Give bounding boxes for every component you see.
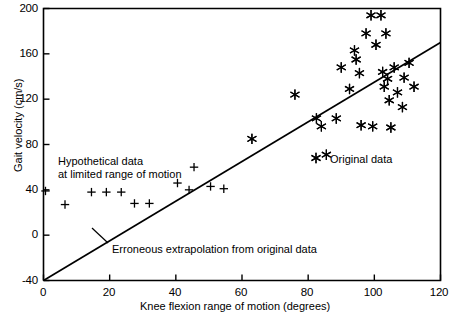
x-tick-label-0: 0: [23, 286, 63, 298]
annotation-hypothetical-line2: at limited range of motion: [58, 168, 182, 181]
data-point-plus: [87, 188, 95, 196]
x-tick-label-20: 20: [89, 286, 129, 298]
data-point-asterisk: [381, 28, 390, 38]
data-point-asterisk: [386, 122, 395, 132]
x-axis-title: Knee flexion range of motion (degrees): [140, 300, 330, 312]
annotation-leader-line: [92, 228, 108, 243]
annotation-extrapolation: Erroneous extrapolation from original da…: [112, 243, 317, 256]
data-point-asterisk: [368, 121, 377, 131]
x-tick-label-120: 120: [419, 286, 459, 298]
data-point-plus: [145, 199, 153, 207]
data-point-asterisk: [357, 120, 366, 130]
y-tick-label-neg40: -40: [0, 274, 38, 286]
data-point-plus: [102, 188, 110, 196]
y-tick-label-200: 200: [0, 2, 38, 14]
data-point-plus: [190, 163, 198, 171]
x-tick-label-40: 40: [155, 286, 195, 298]
data-point-plus: [206, 182, 214, 190]
data-point-asterisk: [345, 84, 354, 94]
y-tick-label-40: 40: [0, 183, 38, 195]
annotation-original-data: Original data: [330, 153, 392, 166]
plot-frame: [44, 9, 441, 281]
data-point-asterisk: [311, 153, 320, 163]
data-point-asterisk: [247, 134, 256, 144]
data-point-plus: [117, 188, 125, 196]
x-tick-label-80: 80: [287, 286, 327, 298]
data-point-asterisk: [376, 10, 385, 20]
x-tick-label-60: 60: [221, 286, 261, 298]
y-tick-label-0: 0: [0, 228, 38, 240]
data-point-asterisk: [350, 45, 359, 55]
data-point-asterisk: [385, 95, 394, 105]
data-point-asterisk: [317, 121, 326, 131]
annotation-hypothetical-line1: Hypothetical data: [58, 155, 143, 168]
data-point-asterisk: [337, 62, 346, 72]
y-tick-label-80: 80: [0, 138, 38, 150]
data-point-plus: [130, 199, 138, 207]
data-point-asterisk: [367, 10, 376, 20]
data-point-asterisk: [352, 54, 361, 64]
data-point-asterisk: [362, 28, 371, 38]
data-point-plus: [185, 186, 193, 194]
data-point-asterisk: [332, 113, 341, 123]
x-tick-label-100: 100: [353, 286, 393, 298]
figure-container: Gait velocity (cm/s) 200 160 120 80 40 0…: [0, 0, 460, 321]
data-point-plus: [220, 185, 228, 193]
data-point-asterisk: [393, 87, 402, 97]
data-point-asterisk: [398, 102, 407, 112]
data-point-plus: [41, 187, 49, 195]
y-tick-label-120: 120: [0, 92, 38, 104]
y-tick-label-160: 160: [0, 47, 38, 59]
data-point-asterisk: [290, 89, 299, 99]
data-point-asterisk: [355, 68, 364, 78]
data-point-plus: [61, 200, 69, 208]
data-point-asterisk: [410, 82, 419, 92]
data-point-asterisk: [371, 40, 380, 50]
data-point-asterisk: [400, 72, 409, 82]
